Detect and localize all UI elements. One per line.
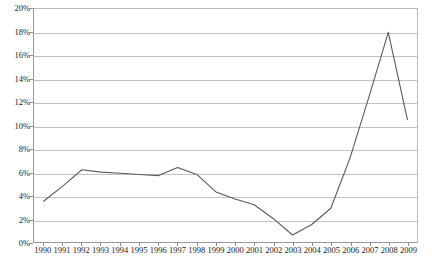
x-tick-label: 2006	[342, 246, 359, 255]
y-tick-label: 2%	[2, 215, 30, 224]
x-tick-mark	[351, 242, 352, 246]
x-tick-mark	[235, 242, 236, 246]
plot-area	[33, 8, 418, 243]
x-tick-mark	[312, 242, 313, 246]
x-tick-label: 2002	[265, 246, 282, 255]
y-tick-label: 8%	[2, 145, 30, 154]
x-tick-label: 1991	[53, 246, 70, 255]
y-tick-mark	[29, 243, 33, 244]
x-tick-label: 1993	[92, 246, 109, 255]
x-tick-mark	[81, 242, 82, 246]
x-axis: 1990199119921993199419951996199719981999…	[33, 246, 418, 262]
y-tick-label: 4%	[2, 192, 30, 201]
x-tick-label: 1995	[130, 246, 147, 255]
y-tick-label: 12%	[2, 98, 30, 107]
x-tick-label: 2001	[246, 246, 263, 255]
y-axis: 0%2%4%6%8%10%12%14%16%18%20%	[0, 8, 30, 243]
series-line	[44, 32, 408, 235]
x-tick-label: 1997	[169, 246, 186, 255]
x-tick-mark	[293, 242, 294, 246]
x-tick-label: 1994	[111, 246, 128, 255]
y-tick-label: 6%	[2, 168, 30, 177]
x-tick-mark	[389, 242, 390, 246]
x-tick-mark	[197, 242, 198, 246]
x-tick-label: 2003	[284, 246, 301, 255]
x-tick-label: 2009	[400, 246, 417, 255]
y-tick-label: 14%	[2, 74, 30, 83]
x-tick-mark	[331, 242, 332, 246]
x-tick-label: 1998	[188, 246, 205, 255]
x-tick-mark	[158, 242, 159, 246]
x-tick-mark	[370, 242, 371, 246]
x-tick-mark	[43, 242, 44, 246]
x-tick-label: 2007	[361, 246, 378, 255]
x-tick-label: 2008	[381, 246, 398, 255]
x-tick-mark	[254, 242, 255, 246]
x-tick-mark	[120, 242, 121, 246]
x-tick-label: 1996	[150, 246, 167, 255]
x-tick-mark	[62, 242, 63, 246]
y-tick-label: 16%	[2, 51, 30, 60]
x-tick-label: 2000	[227, 246, 244, 255]
series-line-layer	[34, 9, 417, 242]
x-tick-mark	[177, 242, 178, 246]
x-tick-label: 1992	[73, 246, 90, 255]
x-tick-mark	[139, 242, 140, 246]
x-tick-mark	[274, 242, 275, 246]
x-tick-label: 2004	[304, 246, 321, 255]
line-chart: 0%2%4%6%8%10%12%14%16%18%20% 19901991199…	[0, 0, 432, 267]
x-tick-label: 1999	[207, 246, 224, 255]
x-tick-label: 2005	[323, 246, 340, 255]
y-tick-label: 18%	[2, 27, 30, 36]
y-tick-label: 20%	[2, 4, 30, 13]
y-tick-label: 0%	[2, 239, 30, 248]
x-tick-mark	[100, 242, 101, 246]
y-tick-label: 10%	[2, 121, 30, 130]
x-tick-mark	[408, 242, 409, 246]
x-tick-mark	[216, 242, 217, 246]
x-tick-label: 1990	[34, 246, 51, 255]
